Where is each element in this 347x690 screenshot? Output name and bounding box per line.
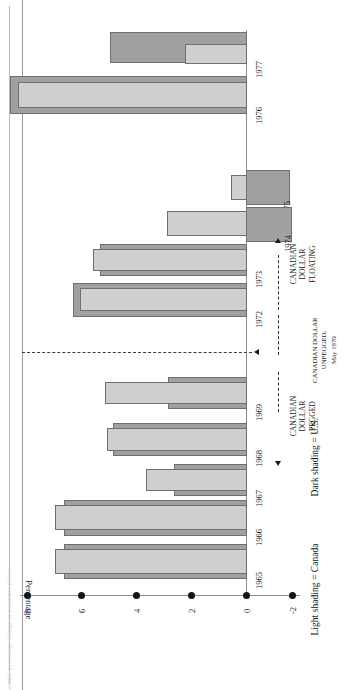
year-label-1965: 1965 — [254, 559, 264, 589]
plot-area: 8 6 4 2 0 -2 Percentage 1977 1976 1975 1… — [0, 0, 347, 690]
year-label-1969: 1969 — [254, 391, 264, 421]
pegged-arrow-icon — [275, 461, 281, 466]
bar-1966-canada — [55, 505, 247, 530]
year-label-1967: 1967 — [254, 477, 264, 507]
floating-arrow-icon — [275, 238, 281, 243]
unpegged-arrow-icon — [254, 349, 259, 355]
year-label-1976: 1976 — [254, 94, 264, 124]
bar-1969-canada — [105, 382, 247, 404]
year-label-1972: 1972 — [254, 298, 264, 328]
legend-dark-us: Dark shading = U.S. — [309, 385, 320, 497]
bar-1973-canada — [93, 249, 247, 271]
year-label-1966: 1966 — [254, 516, 264, 546]
bar-1974-canada — [167, 211, 247, 236]
floating-leader-line — [278, 255, 279, 310]
bar-1972-canada — [80, 288, 247, 311]
axis-title-percentage: Percentage — [24, 580, 34, 630]
bar-1976-canada — [18, 82, 247, 108]
value-axis-line — [20, 595, 300, 596]
pegged-leader-line — [278, 372, 279, 412]
bar-1967-canada — [146, 469, 247, 491]
year-label-1973: 1973 — [254, 258, 264, 288]
year-label-1977: 1977 — [254, 48, 264, 78]
axis-tick-label-2: 2 — [187, 597, 197, 613]
axis-tick-label-neg2: -2 — [288, 598, 298, 614]
axis-tick-label-6: 6 — [77, 597, 87, 613]
unpegged-leader-line — [278, 315, 279, 355]
bar-1975-canada — [231, 175, 247, 200]
bar-1965-canada — [55, 549, 247, 574]
axis-tick-label-0: 0 — [242, 597, 252, 613]
regime-break-dashed-line — [22, 352, 252, 353]
legend-light-canada: Light shading = Canada — [309, 516, 320, 636]
bar-1977-canada — [185, 44, 247, 64]
chart-page: annual percentage change in consumer pri… — [0, 0, 347, 690]
axis-tick-label-4: 4 — [132, 597, 142, 613]
bar-1968-canada — [107, 428, 247, 451]
year-label-1968: 1968 — [254, 437, 264, 467]
